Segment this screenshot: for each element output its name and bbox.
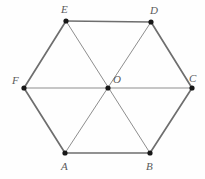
vertex-dot-A <box>62 150 67 155</box>
vertex-dot-D <box>148 19 153 24</box>
vertex-dot-E <box>63 18 68 23</box>
vertex-dot-C <box>189 85 194 90</box>
vertex-label-D: D <box>150 5 158 16</box>
edge-ED <box>66 21 151 22</box>
edge-FE <box>24 21 66 88</box>
vertex-label-B: B <box>146 161 153 172</box>
edge-CB <box>150 88 192 153</box>
vertex-dot-O <box>105 85 110 90</box>
vertex-dot-F <box>21 85 26 90</box>
edge-DC <box>151 22 192 88</box>
vertex-label-O: O <box>113 74 121 85</box>
vertex-label-F: F <box>12 75 19 86</box>
vertex-dot-B <box>147 150 152 155</box>
vertex-label-E: E <box>61 4 68 15</box>
vertex-label-C: C <box>189 73 196 84</box>
vertex-label-A: A <box>61 161 68 172</box>
vertex-layer <box>21 18 194 155</box>
edge-AF <box>24 88 65 153</box>
hexagon-diagram-svg <box>0 0 205 179</box>
hexagon-figure: EDCBAFO <box>0 0 205 179</box>
